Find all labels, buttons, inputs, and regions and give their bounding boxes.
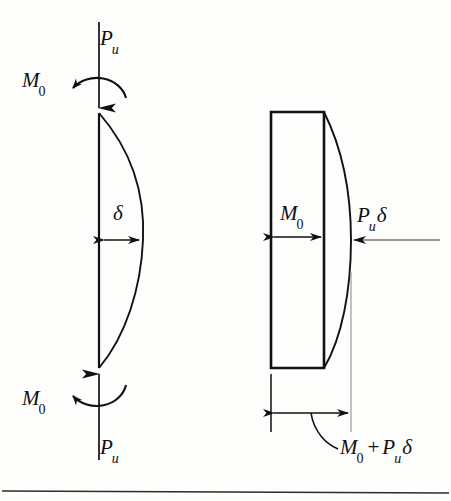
label-axial-load-top: Pu <box>100 28 120 53</box>
total-moment-leader <box>311 413 338 449</box>
label-end-moment-bottom: M0 <box>22 388 47 413</box>
figure-drawing <box>0 0 451 501</box>
primary-moment-block <box>271 112 324 368</box>
label-total-moment: M0+Puδ <box>340 437 412 462</box>
label-end-moment-top: M0 <box>22 70 47 95</box>
label-deflection: δ <box>113 203 123 224</box>
label-secondary-moment: Puδ <box>357 205 387 230</box>
secondary-moment-curve <box>324 112 351 368</box>
right-moment-group <box>271 112 440 449</box>
label-axial-load-bottom: Pu <box>100 437 120 462</box>
page-rule <box>2 491 449 493</box>
figure-container: Pu M0 δ M0 Pu M0 Puδ M0+Puδ <box>0 0 451 501</box>
left-column-group <box>73 22 143 460</box>
label-primary-moment: M0 <box>280 203 305 228</box>
